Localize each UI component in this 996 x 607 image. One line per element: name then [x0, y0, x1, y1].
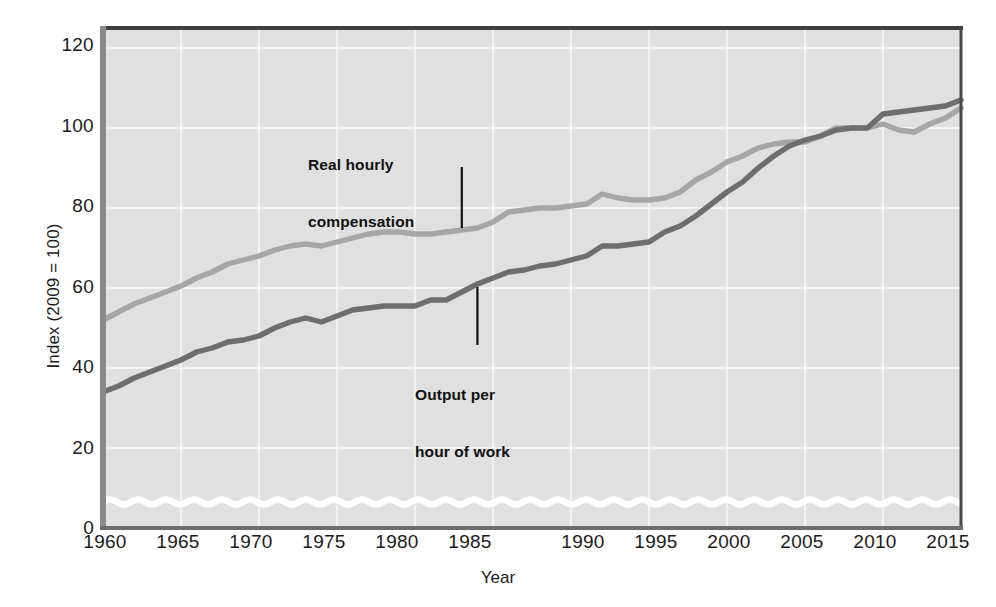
- plot-area: [0, 0, 996, 607]
- annotation-compensation-line1: Real hourly: [308, 156, 414, 175]
- annotation-compensation-line2: compensation: [308, 213, 414, 232]
- chart-figure: Index (2009 = 100) 0 20 40 60 80 100 120…: [0, 0, 996, 607]
- annotation-output-line1: Output per: [415, 386, 510, 405]
- plot-background: [103, 28, 961, 528]
- annotation-output-per-hour: Output per hour of work: [415, 348, 510, 499]
- annotation-real-hourly-compensation: Real hourly compensation: [308, 118, 414, 269]
- annotation-output-line2: hour of work: [415, 443, 510, 462]
